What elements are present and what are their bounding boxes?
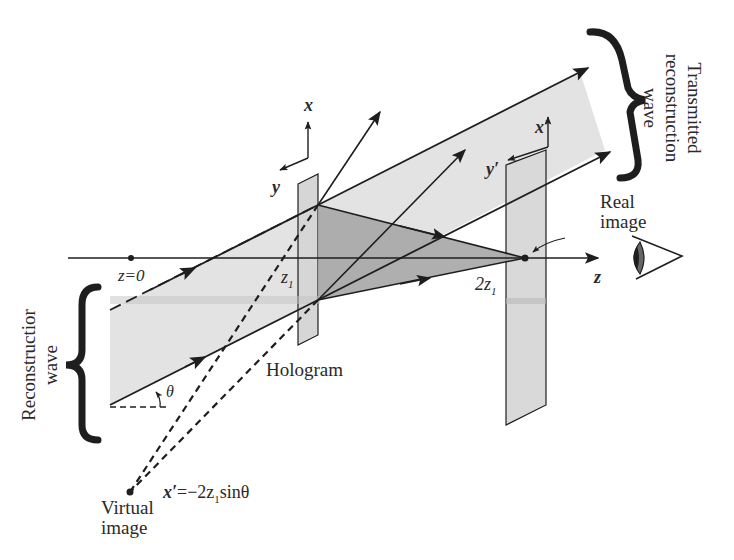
z1-label: z1 [281,268,294,286]
y-prime-label: y′ [486,160,499,178]
transmitted-wave-label: Transmitted reconstruction wave [639,28,705,188]
z-axis-label: z [594,268,601,286]
theta-label: θ [166,384,174,400]
virtual-image-label: Virtual image [101,498,154,538]
virtual-image-formula: x′=−2z1sinθ [163,483,250,501]
virtual-image-point [127,489,134,496]
real-image-plate [506,150,546,425]
hologram-diagram [0,0,734,560]
two-z1-label: 2z1 [475,275,497,293]
transmitted-brace [590,32,645,178]
eye-icon [632,236,682,279]
x-prime-label: x′ [535,118,549,136]
real-image-label: Real image [600,192,646,232]
y-axis-label: y [272,178,280,196]
x-axis-label: x [304,96,313,114]
hologram-label: Hologram [266,360,343,379]
reconstruction-wave-label: Reconstructior wave [18,280,62,450]
reconstruction-brace [66,287,98,440]
z0-point [128,255,134,261]
z0-label: z=0 [118,267,145,284]
hologram-plate [298,174,318,345]
